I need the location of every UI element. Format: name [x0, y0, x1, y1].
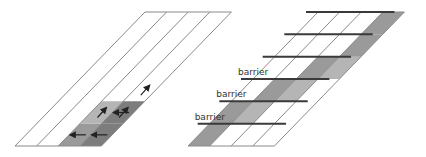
- lanes-diagram: barrierbarrierbarrier: [0, 0, 426, 157]
- right-panel: barrierbarrierbarrier: [188, 12, 404, 146]
- left-panel: [15, 12, 231, 146]
- shaded-cell: [188, 124, 231, 146]
- strip-boundary: [58, 12, 188, 146]
- spread-arrow-icon: [141, 85, 150, 95]
- shaded-cell: [339, 34, 382, 56]
- barrier-label: barrier: [238, 67, 269, 77]
- barrier-label: barrier: [216, 89, 247, 99]
- strip-boundary: [80, 12, 210, 146]
- diagram-canvas: barrierbarrierbarrier: [0, 0, 426, 157]
- barrier-label: barrier: [195, 112, 226, 122]
- shaded-cell: [361, 12, 404, 34]
